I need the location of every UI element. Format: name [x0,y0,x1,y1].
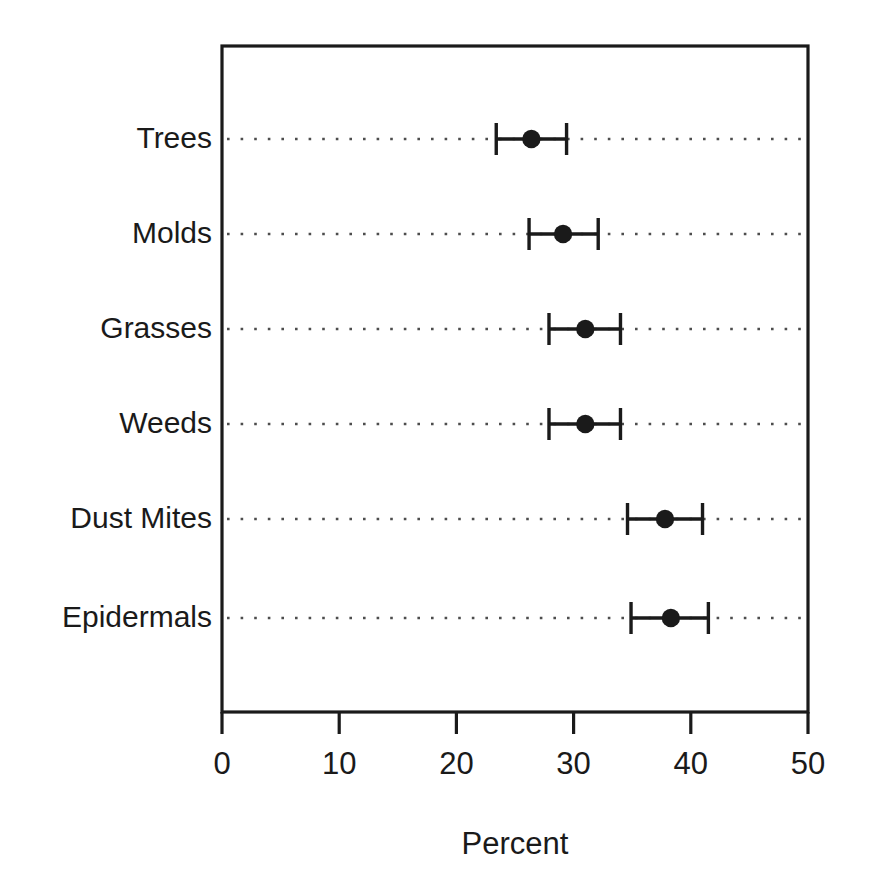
category-label-grasses: Grasses [100,313,212,343]
category-label-dust-mites: Dust Mites [70,503,212,533]
category-label-weeds: Weeds [119,408,212,438]
x-axis-title: Percent [355,828,675,859]
x-tick-label-50: 50 [768,748,848,779]
x-tick-label-20: 20 [416,748,496,779]
allergen-sensitization-dot-plot: TreesMoldsGrassesWeedsDust MitesEpiderma… [0,0,869,893]
category-label-epidermals: Epidermals [62,602,212,632]
x-tick-label-0: 0 [182,748,262,779]
x-tick-label-30: 30 [534,748,614,779]
x-tick-label-10: 10 [299,748,379,779]
category-label-trees: Trees [136,123,212,153]
text-label-layer: TreesMoldsGrassesWeedsDust MitesEpiderma… [0,0,869,893]
x-tick-label-40: 40 [651,748,731,779]
category-label-molds: Molds [132,218,212,248]
